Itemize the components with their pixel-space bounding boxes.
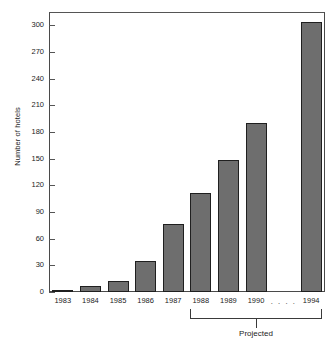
bar[interactable]	[135, 261, 156, 292]
chart-title-remnant	[155, 0, 215, 4]
y-axis-tick-label-wrap: 270	[14, 48, 44, 56]
bar[interactable]	[80, 286, 101, 292]
projected-bracket	[190, 309, 322, 319]
y-axis-tick-label-wrap: 240	[14, 75, 44, 83]
bar[interactable]	[301, 22, 322, 292]
y-axis-tick-label-wrap: 0	[14, 288, 44, 296]
bar[interactable]	[52, 290, 73, 292]
y-axis-tick-label: 150	[18, 155, 44, 163]
y-axis-tick-label-wrap: 210	[14, 101, 44, 109]
y-axis-tick	[49, 292, 55, 293]
y-axis-tick-label: 30	[18, 261, 44, 269]
y-axis-tick-label-wrap: 90	[14, 208, 44, 216]
y-axis-tick-label: 0	[18, 288, 44, 296]
y-axis-tick-label-wrap: 180	[14, 128, 44, 136]
y-axis-tick-label: 120	[18, 181, 44, 189]
y-axis-tick-label-wrap: 120	[14, 181, 44, 189]
bar-chart: Number of hotels 03060901201501802102402…	[0, 0, 331, 357]
y-axis-tick-label: 60	[18, 235, 44, 243]
y-axis-tick-label: 90	[18, 208, 44, 216]
y-axis-tick-label-wrap: 30	[14, 261, 44, 269]
projected-bracket-label: Projected	[216, 329, 296, 339]
bar[interactable]	[246, 123, 267, 292]
bar[interactable]	[190, 193, 211, 292]
y-axis-tick-label-wrap: 150	[14, 155, 44, 163]
y-axis-tick-label: 180	[18, 128, 44, 136]
y-axis-tick-label: 240	[18, 75, 44, 83]
y-axis-tick-label: 210	[18, 101, 44, 109]
y-axis-tick-label: 300	[18, 21, 44, 29]
bar[interactable]	[163, 224, 184, 292]
y-axis-tick-label-wrap: 60	[14, 235, 44, 243]
bar[interactable]	[108, 281, 129, 292]
bar[interactable]	[218, 160, 239, 292]
bars-layer	[49, 12, 325, 292]
projected-bracket-stem	[256, 319, 257, 328]
y-axis-tick-label-wrap: 300	[14, 21, 44, 29]
y-axis-tick-label: 270	[18, 48, 44, 56]
x-axis-gap-ellipsis: . . . .	[266, 297, 302, 306]
